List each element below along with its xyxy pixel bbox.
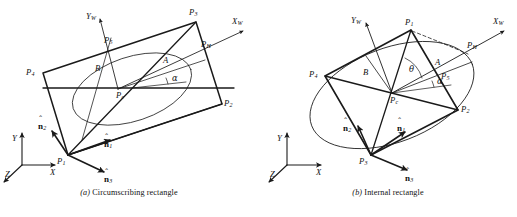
dashed-arc-p1-ph-b — [412, 31, 468, 54]
hat-accent-n3-b: ˆ — [406, 168, 409, 176]
label-frame-y-b: Y — [277, 134, 282, 143]
label-alpha-a: α — [172, 74, 178, 82]
caption-b: (b) Internal rectangle — [259, 188, 517, 197]
diagram-b-graphics — [259, 0, 517, 200]
label-p4-a: P4 — [26, 68, 34, 77]
diagram-a-graphics — [0, 0, 258, 200]
label-axis-yw-a: YW — [86, 12, 96, 21]
label-frame-z-a: Z — [5, 170, 10, 179]
caption-index-b: (b) — [352, 188, 362, 197]
normal-n2-a — [52, 131, 68, 155]
label-frame-x-b: X — [316, 168, 321, 177]
normal-n3-a — [68, 155, 104, 172]
label-normal-n1-a: ˆn1 — [104, 140, 112, 149]
label-p1-b: P1 — [405, 18, 413, 27]
label-normal-n2-b: ˆn2 — [343, 124, 351, 133]
caption-a: (a) Circumscribing rectangle — [0, 188, 258, 197]
panel-internal-rectangle: XW YW P1 P2 P3 P4 P5 PH Pc A B θ α ˆn1 ˆ… — [259, 0, 517, 217]
label-semi-major-b: A — [435, 58, 440, 67]
figure-container: XW YW P3 P2 P4 P1 P5 PH Pc A B α ˆn1 ˆn2… — [0, 0, 517, 217]
hat-accent-n1-b: ˆ — [398, 118, 401, 126]
axis-yw-a — [100, 19, 118, 89]
label-ph-a: PH — [201, 40, 211, 49]
label-p1-a: P1 — [57, 157, 65, 166]
label-axis-yw-b: YW — [351, 16, 361, 25]
caption-text-b: Internal rectangle — [364, 188, 423, 197]
hat-accent-n1-a: ˆ — [105, 134, 108, 142]
axis-xw-a — [118, 31, 243, 89]
label-normal-n3-b: ˆn3 — [405, 174, 413, 183]
label-ph-b: PH — [467, 41, 477, 50]
label-p2-a: P2 — [224, 99, 232, 108]
caption-text-a: Circumscribing rectangle — [92, 188, 177, 197]
normal-n3-b — [371, 155, 407, 170]
label-normal-n1-b: ˆn1 — [397, 124, 405, 133]
label-alpha-b: α — [437, 77, 443, 85]
alpha-reference-line-b — [392, 85, 451, 93]
label-theta-b: θ — [409, 65, 414, 73]
label-frame-z-b: Z — [270, 170, 275, 179]
label-p4-b: P4 — [309, 70, 317, 79]
label-semi-major-a: A — [163, 56, 168, 65]
label-axis-xw-b: XW — [493, 17, 503, 26]
alpha-arc-a — [166, 78, 168, 84]
label-p3-b: P3 — [359, 157, 367, 166]
label-normal-n3-a: ˆn3 — [104, 175, 112, 184]
label-normal-n2-a: ˆn2 — [38, 122, 46, 131]
hat-accent-n2-b: ˆ — [344, 118, 347, 126]
normal-n1-b — [371, 132, 405, 155]
alpha-arc-b — [432, 81, 434, 87]
hat-accent-n2-a: ˆ — [39, 116, 42, 124]
panel-circumscribing-rectangle: XW YW P3 P2 P4 P1 P5 PH Pc A B α ˆn1 ˆn2… — [0, 0, 258, 217]
label-p5-a: P5 — [104, 36, 112, 45]
caption-index-a: (a) — [80, 188, 90, 197]
label-p2-b: P2 — [461, 105, 469, 114]
label-pc-a: Pc — [116, 91, 124, 100]
axis-yw-b — [366, 23, 392, 93]
axis-xw-b — [392, 31, 504, 93]
label-frame-x-a: X — [50, 168, 55, 177]
label-frame-y-a: Y — [12, 134, 17, 143]
normal-n2-b — [358, 126, 371, 155]
hat-accent-n3-a: ˆ — [105, 169, 108, 177]
label-axis-xw-a: XW — [232, 17, 242, 26]
label-p3-a: P3 — [189, 8, 197, 17]
label-semi-minor-a: B — [95, 64, 100, 73]
label-semi-minor-b: B — [363, 68, 368, 77]
label-pc-b: Pc — [390, 96, 398, 105]
